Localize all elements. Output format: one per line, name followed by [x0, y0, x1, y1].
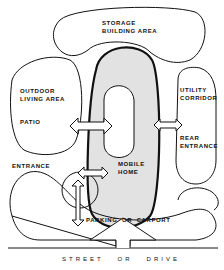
mobile-home-inner: [104, 86, 134, 158]
mobile-home-label-1: MOBILE: [118, 161, 145, 167]
outdoor-label-2: LIVING AREA: [20, 96, 65, 102]
rear-entrance-label-2: ENTRANCE: [180, 143, 218, 149]
utility-label-1: UTILITY: [180, 87, 207, 93]
outdoor-label-1: OUTDOOR: [20, 88, 55, 94]
patio-label: PATIO: [20, 119, 40, 125]
site-plan-diagram: STORAGE BUILDING AREA OUTDOOR LIVING ARE…: [0, 0, 224, 270]
street-label: STREET OR DRIVE: [62, 256, 180, 262]
storage-label-1: STORAGE: [102, 20, 136, 26]
outdoor-living-bubble: [11, 57, 82, 154]
utility-lower-bubble: [178, 188, 218, 210]
storage-label-2: BUILDING AREA: [102, 28, 157, 34]
entrance-label: ENTRANCE: [12, 163, 50, 169]
utility-label-2: CORRIDOR: [180, 95, 218, 101]
double-arrow-entrance-parking: [72, 180, 84, 226]
mobile-home-label-2: HOME: [118, 169, 138, 175]
parking-label: PARKING OR CARPORT: [86, 217, 171, 223]
double-arrow-home-utility: [154, 119, 182, 131]
rear-entrance-label-1: REAR: [180, 135, 199, 141]
